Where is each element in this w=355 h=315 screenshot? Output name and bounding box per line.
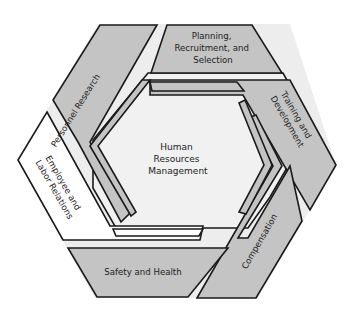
inner-bar-employee <box>113 229 203 236</box>
label-safety: Safety and Health <box>104 267 181 277</box>
inner-bar-training-top <box>150 82 244 91</box>
hrm-hexagon-diagram: Personnel Research Planning, Recruitment… <box>0 0 355 315</box>
